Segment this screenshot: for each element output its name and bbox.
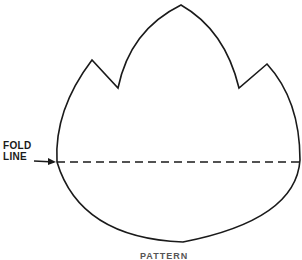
fold-label-line1: FOLD xyxy=(3,140,31,151)
pattern-outline xyxy=(57,5,300,242)
pattern-diagram xyxy=(0,0,302,260)
arrow-icon xyxy=(34,158,56,165)
fold-line-label: FOLD LINE xyxy=(3,140,31,162)
pattern-caption: PATTERN xyxy=(140,251,188,260)
fold-label-line2: LINE xyxy=(3,151,31,162)
